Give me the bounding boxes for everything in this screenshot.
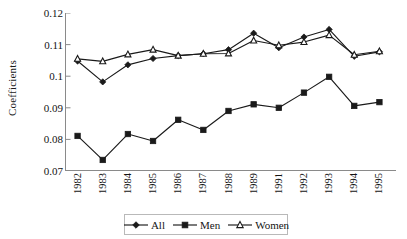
legend-marker-diamond-icon	[123, 219, 149, 231]
data-point-square	[326, 74, 331, 79]
data-point-triangle	[125, 51, 131, 57]
plot-canvas	[65, 13, 396, 171]
legend-marker-square-icon	[172, 219, 198, 231]
legend-entry-men[interactable]: Men	[172, 219, 220, 231]
data-point-triangle	[100, 58, 106, 64]
data-point-triangle	[200, 50, 206, 56]
data-point-square	[182, 222, 188, 228]
diamond-marker	[125, 62, 131, 68]
y-axis-tick-label: 0.11	[27, 39, 63, 51]
data-point-triangle	[150, 46, 156, 52]
plot-area	[65, 13, 396, 171]
square-marker	[377, 99, 382, 104]
square-marker	[182, 222, 188, 228]
square-marker	[125, 131, 130, 136]
data-point-square	[175, 117, 180, 122]
legend-label: Men	[200, 219, 220, 231]
x-axis-tick-label: 1991	[274, 173, 285, 194]
data-point-diamond	[150, 55, 156, 61]
data-point-triangle	[251, 37, 257, 43]
triangle-marker	[100, 58, 106, 64]
y-axis-title-text: Coefficients	[6, 60, 18, 116]
y-axis-tick-label: 0.08	[27, 133, 63, 145]
legend-label: All	[151, 219, 165, 231]
diamond-marker	[251, 30, 257, 36]
diamond-marker	[150, 55, 156, 61]
data-point-triangle	[376, 48, 382, 54]
square-marker	[276, 105, 281, 110]
data-point-diamond	[125, 62, 131, 68]
data-point-square	[150, 138, 155, 143]
y-axis-tick-label: 0.1	[27, 70, 63, 82]
data-point-square	[352, 103, 357, 108]
data-point-triangle	[75, 56, 81, 62]
y-axis-tick-labels: 0.070.080.090.10.110.12	[22, 13, 63, 171]
data-point-square	[251, 102, 256, 107]
y-axis-tick-label: 0.07	[27, 165, 63, 177]
triangle-marker	[276, 42, 282, 48]
triangle-marker	[200, 50, 206, 56]
data-point-triangle	[175, 52, 181, 58]
chart-figure: Coefficients 0.070.080.090.10.110.12 198…	[0, 0, 407, 239]
square-marker	[75, 133, 80, 138]
triangle-marker	[351, 51, 357, 57]
square-marker	[352, 103, 357, 108]
triangle-marker	[376, 48, 382, 54]
data-point-triangle	[301, 39, 307, 45]
square-marker	[175, 117, 180, 122]
x-axis-tick-label: 1994	[349, 173, 360, 194]
data-point-diamond	[133, 221, 140, 228]
data-point-square	[301, 90, 306, 95]
x-axis-tick-label: 1993	[324, 173, 335, 194]
triangle-marker	[301, 39, 307, 45]
diamond-marker	[133, 221, 140, 228]
legend-label: Women	[255, 219, 289, 231]
triangle-marker	[125, 51, 131, 57]
x-axis-tick-label: 1985	[148, 173, 159, 194]
square-marker	[201, 127, 206, 132]
triangle-marker	[326, 32, 332, 38]
chart-legend: AllMenWomen	[124, 214, 288, 235]
series-line-men	[78, 77, 380, 160]
square-marker	[251, 102, 256, 107]
square-marker	[100, 157, 105, 162]
square-marker	[301, 90, 306, 95]
data-point-triangle	[276, 42, 282, 48]
x-axis-tick-labels: 1982198319841985198619871988198919911992…	[65, 173, 396, 211]
data-point-square	[201, 127, 206, 132]
x-axis-tick-label: 1986	[173, 173, 184, 194]
data-point-square	[226, 108, 231, 113]
triangle-marker	[150, 46, 156, 52]
data-point-triangle	[351, 51, 357, 57]
square-marker	[150, 138, 155, 143]
x-axis-tick-label: 1982	[73, 173, 84, 194]
x-axis-tick-label: 1983	[98, 173, 109, 194]
x-axis-tick-label: 1984	[123, 173, 134, 194]
data-point-square	[125, 131, 130, 136]
x-axis-tick-label: 1988	[224, 173, 235, 194]
legend-marker-triangle-icon	[227, 219, 253, 231]
data-point-triangle	[326, 32, 332, 38]
square-marker	[226, 108, 231, 113]
data-point-square	[276, 105, 281, 110]
y-axis-tick-label: 0.09	[27, 102, 63, 114]
triangle-marker	[75, 56, 81, 62]
y-axis-title: Coefficients	[0, 0, 24, 175]
x-axis-tick-label: 1989	[249, 173, 260, 194]
square-marker	[326, 74, 331, 79]
data-point-square	[75, 133, 80, 138]
x-axis-tick-label: 1987	[198, 173, 209, 194]
y-axis-tick-label: 0.12	[27, 7, 63, 19]
triangle-marker	[175, 52, 181, 58]
triangle-marker	[251, 37, 257, 43]
data-point-square	[377, 99, 382, 104]
legend-entry-women[interactable]: Women	[227, 219, 289, 231]
data-point-diamond	[251, 30, 257, 36]
legend-entry-all[interactable]: All	[123, 219, 165, 231]
x-axis-tick-label: 1995	[374, 173, 385, 194]
x-axis-tick-label: 1992	[299, 173, 310, 194]
data-point-square	[100, 157, 105, 162]
